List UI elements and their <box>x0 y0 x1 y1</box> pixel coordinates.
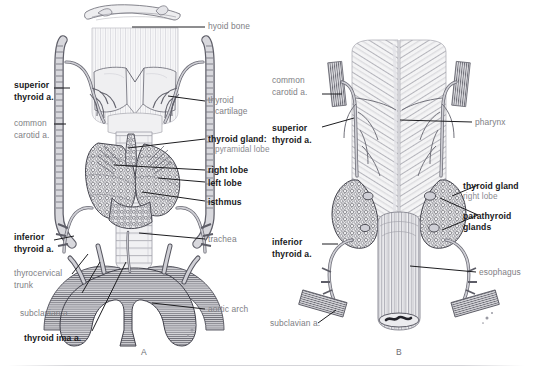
label-hyoid-bone: hyoid bone <box>208 22 250 32</box>
label-left-lobe: left lobe <box>208 178 242 188</box>
anatomy-illustration <box>0 0 534 370</box>
label-pharynx: pharynx <box>475 118 506 128</box>
label-superior-thyroid-a-line2: thyroid a. <box>14 92 54 102</box>
label-inferior-thyroid-a-b-line2: thyroid a. <box>272 249 312 259</box>
label-superior-thyroid-a-line1: superior <box>14 80 49 90</box>
label-esophagus: esophagus <box>479 268 521 278</box>
label-common-carotid-a-b-line2: carotid a. <box>272 88 307 98</box>
label-parathyroid-glands-line1: parathyroid <box>463 211 511 221</box>
label-aortic-arch: aortic arch <box>208 305 248 315</box>
label-thyroid-gland-b: thyroid gland <box>463 181 519 191</box>
label-right-lobe-b: right lobe <box>463 192 498 202</box>
label-subclavian-a: subclavian a. <box>20 309 70 319</box>
label-pyramidal-lobe: pyramidal lobe <box>215 145 270 155</box>
label-right-lobe: right lobe <box>208 165 248 175</box>
label-thyroid-ima-a: thyroid ima a. <box>24 333 81 343</box>
label-common-carotid-a-b-line1: common <box>272 76 305 86</box>
label-isthmus: isthmus <box>208 197 242 207</box>
label-inferior-thyroid-a-line1: inferior <box>14 232 44 242</box>
panel-letter-b: B <box>396 347 402 357</box>
label-common-carotid-a-line1: common <box>14 119 47 129</box>
panel-letter-a: A <box>141 347 147 357</box>
label-subclavian-a-b: subclavian a. <box>270 319 320 329</box>
label-parathyroid-glands-line2: glands <box>463 222 491 232</box>
label-thyroid-cartilage-line1: thyroid <box>208 96 234 106</box>
label-thyroid-cartilage-line2: cartilage <box>215 107 248 117</box>
anatomy-figure: hyoid bone thyroid cartilage thyroid gla… <box>0 0 534 370</box>
label-common-carotid-a-line2: carotid a. <box>14 131 49 141</box>
label-thyrocervical-trunk-line2: trunk <box>14 281 33 291</box>
label-superior-thyroid-a-b-line1: superior <box>272 123 307 133</box>
bottom-rule <box>8 365 524 366</box>
panel-a-artwork <box>44 5 224 346</box>
label-trachea: trachea <box>208 235 237 245</box>
label-inferior-thyroid-a-line2: thyroid a. <box>14 244 54 254</box>
label-inferior-thyroid-a-b-line1: inferior <box>272 237 302 247</box>
label-thyroid-gland: thyroid gland: <box>208 134 267 144</box>
label-superior-thyroid-a-b-line2: thyroid a. <box>272 135 312 145</box>
label-thyrocervical-trunk-line1: thyrocervical <box>14 269 62 279</box>
